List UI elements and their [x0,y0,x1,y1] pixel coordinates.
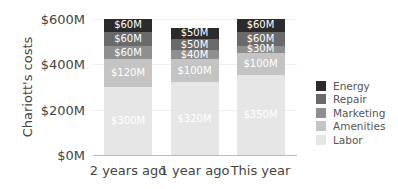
bar-stack[interactable]: $350M$100M$30M$60M$60M [237,19,285,155]
legend: EnergyRepairMarketingAmenitiesLabor [316,79,385,147]
bar-segment-labor[interactable]: $320M [171,82,219,155]
data-label: $60M [114,20,142,30]
data-label: $60M [114,34,142,44]
legend-label: Repair [333,93,367,105]
legend-swatch [316,121,326,131]
bar-segment-energy[interactable]: $60M [104,19,152,33]
bar-segment-labor[interactable]: $350M [237,75,285,155]
bar-segment-energy[interactable]: $50M [171,28,219,39]
bar-segment-marketing[interactable]: $30M [237,46,285,53]
legend-swatch [316,94,326,104]
legend-label: Marketing [333,107,385,119]
bar-segment-amenities[interactable]: $120M [104,59,152,86]
x-axis-line [93,155,297,156]
legend-item-repair[interactable]: Repair [316,93,385,107]
bar-segment-repair[interactable]: $60M [104,32,152,46]
bar-segment-amenities[interactable]: $100M [171,59,219,82]
bar-segment-amenities[interactable]: $100M [237,53,285,76]
legend-item-energy[interactable]: Energy [316,79,385,93]
legend-label: Labor [333,134,363,146]
legend-item-amenities[interactable]: Amenities [316,120,385,134]
x-tick-label: 1 year ago [160,163,230,178]
legend-item-marketing[interactable]: Marketing [316,106,385,120]
data-label: $50M [181,28,209,38]
data-label: $60M [247,20,275,30]
y-axis-title: Chariott's costs [20,37,35,138]
legend-item-labor[interactable]: Labor [316,133,385,147]
legend-label: Energy [333,80,370,92]
bar-stack[interactable]: $320M$100M$40M$50M$50M [171,28,219,155]
bar-segment-marketing[interactable]: $40M [171,50,219,59]
bar-stack[interactable]: $300M$120M$60M$60M$60M [104,19,152,155]
y-tick-label: $200M [41,102,85,117]
data-label: $120M [111,68,145,78]
x-tick-label: This year [231,163,291,178]
y-tick-label: $0M [57,148,85,163]
legend-swatch [316,108,326,118]
x-tick-label: 2 years ago [90,163,166,178]
data-label: $40M [181,50,209,60]
y-tick-label: $600M [41,11,85,26]
y-tick-label: $400M [41,57,85,72]
data-label: $60M [114,48,142,58]
legend-label: Amenities [333,120,385,132]
bar-segment-labor[interactable]: $300M [104,87,152,155]
data-label: $100M [243,59,277,69]
bar-segment-marketing[interactable]: $60M [104,46,152,60]
data-label: $350M [243,110,277,120]
legend-swatch [316,81,326,91]
data-label: $100M [177,66,211,76]
data-label: $320M [177,114,211,124]
stacked-bar-chart: Chariott's costs $0M$200M$400M$600M $300… [0,0,398,189]
bar-segment-energy[interactable]: $60M [237,19,285,33]
legend-swatch [316,135,326,145]
data-label: $300M [111,116,145,126]
